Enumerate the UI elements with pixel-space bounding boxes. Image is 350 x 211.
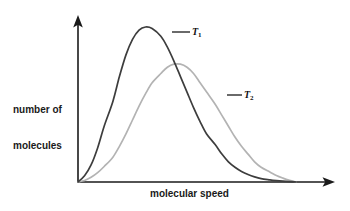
- series-label-t1: T1: [192, 26, 202, 37]
- curve-t2: [78, 64, 296, 182]
- annotation-leaders: [172, 32, 242, 95]
- series-label-t2-subscript: 2: [250, 94, 254, 102]
- series-label-t1-subscript: 1: [198, 31, 202, 39]
- y-axis-title: number of molecules: [13, 80, 75, 176]
- chart-figure: number of molecules molecular speed T1 T…: [0, 0, 350, 211]
- series-label-t2: T2: [244, 89, 254, 100]
- series-curves: [78, 27, 296, 182]
- x-axis-title: molecular speed: [150, 188, 229, 200]
- y-axis-title-line1: number of: [13, 104, 75, 116]
- y-axis-title-line2: molecules: [13, 140, 75, 152]
